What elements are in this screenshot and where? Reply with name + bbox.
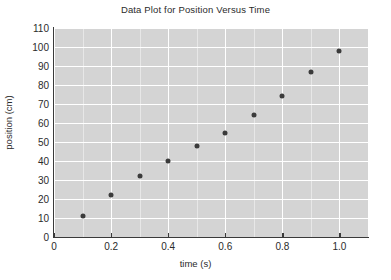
x-tick-label: 0 (51, 241, 57, 252)
gridline-vertical (254, 28, 255, 237)
gridline-horizontal (54, 123, 368, 124)
x-tick-mark (54, 233, 55, 238)
data-point (109, 193, 114, 198)
data-point (251, 113, 256, 118)
gridline-horizontal (54, 199, 368, 200)
gridline-horizontal (54, 180, 368, 181)
x-axis-line (53, 237, 369, 238)
x-axis-title: time (s) (0, 258, 391, 269)
data-point (137, 174, 142, 179)
y-axis-title: position (cm) (3, 78, 14, 168)
gridline-vertical (339, 28, 340, 237)
gridline-vertical (140, 28, 141, 237)
gridline-vertical (111, 28, 112, 237)
gridline-vertical (197, 28, 198, 237)
x-tick-mark (339, 233, 340, 238)
x-tick-mark (282, 233, 283, 238)
data-point (80, 214, 85, 219)
y-tick-label: 20 (6, 194, 54, 205)
gridline-horizontal (54, 142, 368, 143)
x-tick-label: 0.2 (104, 241, 118, 252)
x-tick-mark (111, 233, 112, 238)
plot-area (54, 28, 368, 237)
gridline-vertical (311, 28, 312, 237)
x-tick-label: 1.0 (332, 241, 346, 252)
data-point (166, 159, 171, 164)
x-tick-label: 0.8 (275, 241, 289, 252)
x-tick-label: 0.6 (218, 241, 232, 252)
y-tick-label: 90 (6, 61, 54, 72)
chart-title: Data Plot for Position Versus Time (0, 4, 391, 15)
gridline-horizontal (54, 218, 368, 219)
x-tick-mark (168, 233, 169, 238)
y-tick-label: 10 (6, 213, 54, 224)
data-point (280, 94, 285, 99)
y-tick-label: 0 (6, 232, 54, 243)
gridline-horizontal (54, 85, 368, 86)
data-point (223, 130, 228, 135)
data-point (308, 69, 313, 74)
gridline-horizontal (54, 104, 368, 105)
gridline-horizontal (54, 66, 368, 67)
gridline-vertical (83, 28, 84, 237)
gridline-horizontal (54, 161, 368, 162)
data-point (337, 48, 342, 53)
gridline-vertical (168, 28, 169, 237)
x-tick-mark (225, 233, 226, 238)
y-tick-label: 100 (6, 42, 54, 53)
gridline-vertical (282, 28, 283, 237)
data-point (194, 143, 199, 148)
x-tick-label: 0.4 (161, 241, 175, 252)
gridline-horizontal (54, 47, 368, 48)
scatter-chart-figure: Data Plot for Position Versus Time 01020… (0, 0, 391, 280)
gridline-horizontal (54, 28, 368, 29)
y-tick-label: 110 (6, 23, 54, 34)
y-tick-label: 30 (6, 175, 54, 186)
